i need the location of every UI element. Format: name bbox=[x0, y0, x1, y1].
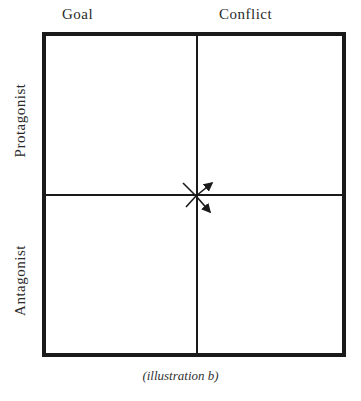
caption: (illustration b) bbox=[0, 368, 361, 384]
crossed-arrows-icon bbox=[176, 176, 220, 220]
row-label-protagonist: Protagonist bbox=[12, 81, 29, 161]
column-label-conflict: Conflict bbox=[219, 6, 272, 23]
row-label-antagonist: Antagonist bbox=[12, 241, 29, 321]
column-label-goal: Goal bbox=[62, 6, 93, 23]
